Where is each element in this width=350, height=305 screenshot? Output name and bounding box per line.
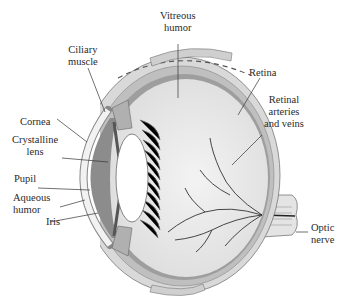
label-line: nerve — [311, 234, 334, 246]
label-line: Cornea — [20, 116, 50, 128]
label-cornea: Cornea — [20, 116, 50, 128]
label-line: Retinal — [264, 94, 304, 106]
label-retinal-vessels: Retinal arteries and veins — [264, 94, 304, 130]
label-pupil: Pupil — [14, 173, 36, 185]
label-iris: Iris — [46, 216, 60, 228]
crystalline-lens — [116, 134, 148, 222]
label-line: Ciliary — [68, 44, 98, 56]
label-line: Pupil — [14, 173, 36, 185]
label-line: Aqueous — [13, 192, 50, 204]
label-ciliary-muscle: Ciliary muscle — [68, 44, 98, 68]
label-line: Crystalline — [12, 134, 58, 146]
label-aqueous-humor: Aqueous humor — [13, 192, 50, 216]
label-line: muscle — [68, 56, 98, 68]
label-vitreous-humor: Vitreous humor — [160, 10, 196, 34]
label-line: and veins — [264, 118, 304, 130]
label-line: humor — [160, 22, 196, 34]
label-line: humor — [13, 204, 50, 216]
label-line: Optic — [311, 222, 334, 234]
label-line: Vitreous — [160, 10, 196, 22]
label-line: arteries — [264, 106, 304, 118]
label-line: lens — [12, 146, 58, 158]
label-line: Retina — [249, 67, 276, 79]
label-line: Iris — [46, 216, 60, 228]
label-crystalline-lens: Crystalline lens — [12, 134, 58, 158]
label-retina: Retina — [249, 67, 276, 79]
label-optic-nerve: Optic nerve — [311, 222, 334, 246]
